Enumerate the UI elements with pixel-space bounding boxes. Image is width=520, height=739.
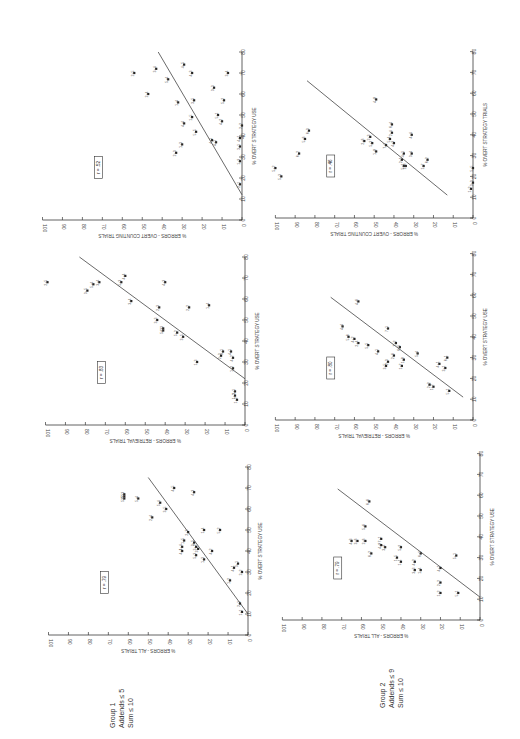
regression-line [148,478,248,615]
point-label: 1+7 [399,363,403,369]
point-label: 3+4 [96,280,100,286]
point-label: 2+6 [391,353,395,359]
point-label: 5+3 [278,174,282,180]
x-tick-label: 30 [243,359,249,365]
point-label: 2+2 [437,580,441,586]
point-label: 3+5 [180,334,184,340]
panel-group2-all: 0102030405060708090100% ERRORS - ALL TRI… [258,440,508,640]
point-label: 5+1 [453,553,457,559]
x-tick-label: 70 [471,271,477,277]
point-label: 3+1 [237,144,241,150]
point-label: 1+4 [206,303,210,309]
y-tick-label: 90 [64,429,70,435]
y-tick-label: 50 [373,424,379,430]
point-label: 3+4 [225,71,229,77]
y-tick-label: 90 [301,624,307,630]
point-label: 5+6 [302,136,306,142]
point-label: 5+4 [415,351,419,357]
point-label: 5+3 [121,492,125,498]
point-label: 4+2 [209,549,213,555]
regression-line [338,489,480,597]
scatter-plot: 0102030405060708090100% ERRORS - ALL TRI… [20,445,270,650]
y-tick-label: 10 [452,424,458,430]
y-tick-label: 30 [420,624,426,630]
data-points: 2+11+33+14+12+24+14+15+14+23+35+23+54+34… [131,62,243,188]
regression-line [79,257,245,379]
data-points: 1+12+11+22+23+14+11+34+23+35+33+21+51+44… [121,486,243,616]
y-tick-label: 60 [124,429,130,435]
point-label: 7+1 [385,326,389,332]
point-label: 4+3 [191,490,195,496]
point-label: 2+3 [367,134,371,140]
y-tick-label: 0 [244,429,250,432]
point-label: 5+4 [165,77,169,83]
point-label: 2+5 [44,280,48,286]
x-tick-label: 10 [471,396,477,402]
axes: 0102030405060708090100% ERRORS - RETRIEV… [45,254,261,443]
point-label: 1+3 [237,159,241,165]
y-tick-label: 90 [67,639,73,645]
x-tick-label: 80 [478,451,484,457]
point-label: 4+3 [160,326,164,332]
data-points: 1+21+12+11+31+24+22+23+14+13+55+25+34+33… [44,273,238,403]
y-tick-label: 30 [181,224,187,230]
point-label: 2+1 [237,182,241,188]
group2-label: Group 2 Addends ≤ 9 Sum ≤ 10 [378,669,405,708]
point-label: 5+4 [157,500,161,506]
point-label: 5+4 [135,496,139,502]
y-tick-label: 10 [452,222,458,228]
point-label: 3+1 [442,366,446,372]
point-label: 5+3 [118,280,122,286]
panel-group1-retrieval: 0102030405060708090100% ERRORS - RETRIEV… [20,240,270,445]
point-label: 4+4 [340,324,344,330]
y-tick-label: 20 [432,424,438,430]
point-label: 1+2 [227,578,231,584]
point-label: 1+2 [437,590,441,596]
point-label: 2+3 [156,305,160,311]
point-label: 2+3 [173,150,177,156]
x-tick-label: 30 [246,569,252,575]
y-tick-label: 100 [48,639,54,648]
y-tick-label: 60 [127,639,133,645]
panel-group2-retrieval: 0102030405060708090100% ERRORS - RETRIEV… [255,240,505,440]
point-label: 3+4 [128,299,132,305]
point-label: 2+1 [232,389,236,395]
scatter-plot: 0102030405060708090100% ERRORS - RETRIEV… [20,240,270,445]
y-tick-label: 10 [224,429,230,435]
x-tick-label: 10 [240,196,246,202]
y-tick-label: 70 [107,639,113,645]
scatter-plot: 0102030405060708090100% ERRORS - OVERT C… [255,35,505,235]
x-tick-label: 30 [471,355,477,361]
y-tick-label: 80 [84,429,90,435]
point-label: 2+4 [145,92,149,98]
point-label: 6+1 [444,355,448,361]
x-tick-label: 60 [240,91,246,97]
point-label: 4+1 [228,349,232,355]
point-label: 1+8 [401,357,405,363]
axes: 0102030405060708090100% ERRORS - ALL TRI… [281,451,495,638]
point-label: 2+4 [149,515,153,521]
point-label: 1+3 [179,142,183,148]
point-label: 3+3 [412,568,416,574]
point-label: 2+3 [185,530,189,536]
point-label: 5+2 [217,528,221,534]
point-label: 5+1 [215,113,219,119]
point-label: 6+3 [306,128,310,134]
y-tick-label: 70 [101,224,107,230]
correlation-box: r = .80 [327,357,335,379]
point-label: 4+3 [391,141,395,147]
point-label: 5+6 [346,334,350,340]
y-tick-label: 60 [353,222,359,228]
data-points: 5+11+22+23+14+16+11+73+52+31+82+65+44+16… [340,299,451,395]
point-label: 6+2 [368,551,372,557]
point-label: 1+2 [230,366,234,372]
y-tick-label: 30 [413,222,419,228]
point-label: 4+4 [409,132,413,138]
data-points: 1+23+35+55+11+76+21+62+13+44+17+14+35+42… [272,97,474,193]
point-label: 1+7 [421,164,425,170]
x-tick-label: 70 [246,485,252,491]
y-tick-label: 10 [459,624,465,630]
point-label: 2+4 [355,341,359,347]
point-label: 5+5 [365,343,369,349]
y-tick-label: 20 [432,222,438,228]
